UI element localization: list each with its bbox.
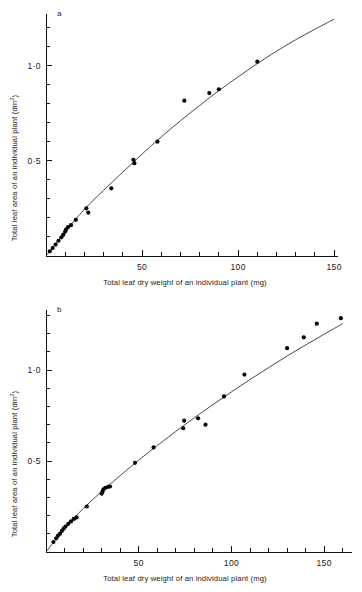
fitted-curve-panel-a: [46, 19, 334, 256]
y-tick-labels-panel-b: 0·51·0: [28, 365, 42, 466]
figure-container: 50100150 0·51·0 a Total leaf dry weight …: [0, 0, 362, 592]
data-point: [54, 242, 58, 246]
data-points-panel-b: [51, 316, 343, 544]
x-tick-label: 150: [316, 558, 331, 568]
data-point: [109, 186, 113, 190]
data-point: [196, 416, 200, 420]
data-point: [181, 426, 185, 430]
axes-panel-b: [46, 310, 352, 552]
fitted-curve-panel-b: [46, 324, 343, 552]
x-tick-label: 100: [230, 262, 245, 272]
data-point: [48, 249, 52, 253]
data-point: [69, 223, 73, 227]
data-point: [51, 246, 55, 250]
data-point: [51, 540, 55, 544]
data-point: [132, 161, 136, 165]
data-point: [339, 316, 343, 320]
panel-label-a: a: [57, 9, 62, 18]
data-point: [155, 140, 159, 144]
panel-label-b: b: [57, 305, 62, 314]
data-point: [74, 218, 78, 222]
data-point: [85, 504, 89, 508]
data-point: [217, 87, 221, 91]
chart-panel-b: 50100150 0·51·0 b Total leaf dry weight …: [0, 296, 362, 592]
data-point: [285, 346, 289, 350]
data-point: [315, 322, 319, 326]
x-tick-labels-panel-b: 50100150: [134, 558, 332, 568]
data-point: [203, 423, 207, 427]
y-tick-label: 1·0: [28, 61, 42, 71]
chart-panel-a: 50100150 0·51·0 a Total leaf dry weight …: [0, 0, 362, 296]
y-tick-labels-panel-a: 0·51·0: [28, 61, 42, 166]
x-tick-label: 150: [326, 262, 341, 272]
tick-marks-panel-b: [46, 315, 343, 552]
x-axis-title-panel-a: Total leaf dry weight of an individual p…: [103, 278, 267, 287]
data-point: [84, 206, 88, 210]
data-point: [207, 91, 211, 95]
data-point: [242, 372, 246, 376]
x-axis-title-panel-b: Total leaf dry weight of an individual p…: [103, 574, 267, 583]
axes-panel-a: [46, 14, 338, 256]
data-point: [56, 239, 60, 243]
data-point: [151, 445, 155, 449]
data-point: [222, 394, 226, 398]
x-tick-label: 50: [137, 262, 147, 272]
data-point: [182, 99, 186, 103]
y-tick-label: 0·5: [28, 156, 42, 166]
data-point: [86, 210, 90, 214]
x-tick-label: 100: [224, 558, 239, 568]
tick-marks-panel-a: [46, 27, 334, 256]
y-tick-label: 0·5: [28, 456, 42, 466]
y-axis-title-panel-a: Total leaf area of an individual plant (…: [9, 94, 19, 241]
data-point: [75, 515, 79, 519]
y-tick-label: 1·0: [28, 365, 42, 375]
data-point: [302, 335, 306, 339]
data-point: [182, 419, 186, 423]
data-point: [108, 484, 112, 488]
data-point: [133, 461, 137, 465]
y-axis-title-panel-b: Total leaf area of an individual plant (…: [9, 390, 19, 537]
x-tick-labels-panel-a: 50100150: [137, 262, 342, 272]
x-tick-label: 50: [134, 558, 144, 568]
data-point: [255, 60, 259, 64]
data-points-panel-a: [48, 60, 260, 254]
